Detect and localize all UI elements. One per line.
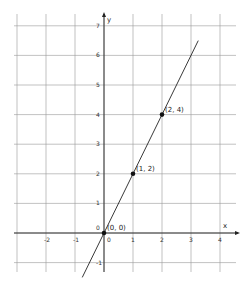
data-point (102, 231, 107, 236)
y-axis-label: y (107, 16, 111, 24)
point-label: (2, 4) (165, 106, 184, 114)
x-tick-label: 0 (107, 236, 111, 243)
y-tick-label: 2 (96, 170, 100, 177)
x-tick-label: -1 (73, 236, 79, 243)
x-tick-label: 2 (160, 236, 164, 243)
data-point (160, 112, 165, 117)
y-axis-arrow-icon (102, 12, 106, 17)
y-tick-label: 3 (96, 140, 100, 147)
line-y-equals-2x (82, 41, 198, 278)
y-tick-label: 6 (96, 51, 100, 58)
y-tick-label: 7 (96, 22, 100, 29)
x-tick-label: 1 (131, 236, 135, 243)
coordinate-plane: xy-2-101234-112345670(0, 0)(1, 2)(2, 4) (0, 0, 242, 292)
y-tick-label: -1 (96, 259, 102, 266)
x-axis-arrow-icon (235, 231, 240, 235)
y-tick-label: 5 (96, 81, 100, 88)
x-tick-label: 4 (218, 236, 222, 243)
y-tick-label: 1 (96, 199, 100, 206)
point-label: (1, 2) (136, 165, 155, 173)
y-tick-label: 4 (96, 111, 100, 118)
x-axis-label: x (223, 222, 227, 230)
point-label: (0, 0) (107, 224, 126, 232)
x-tick-label: 3 (189, 236, 193, 243)
origin-label: 0 (96, 224, 100, 231)
x-tick-label: -2 (44, 236, 50, 243)
data-point (131, 172, 136, 177)
